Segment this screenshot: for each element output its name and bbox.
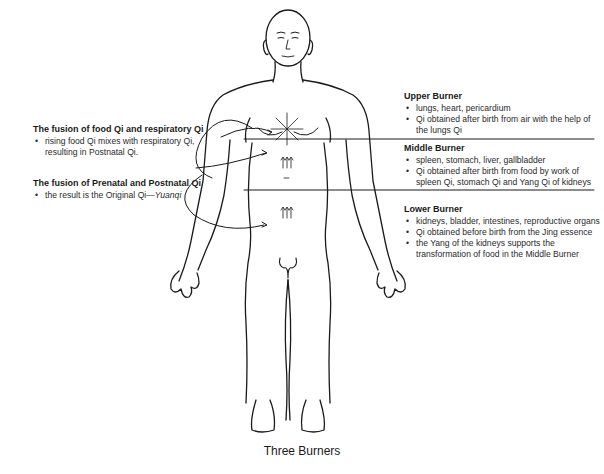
upper-burner-item: Qi obtained after birth from air with th… [416,114,594,136]
middle-burner-title: Middle Burner [404,143,604,154]
lower-burner-item: kidneys, bladder, intestines, reproducti… [416,216,604,227]
fusion-prenatal-postnatal-item: the result is the Original Qi—Yuanqi [45,190,218,201]
figure-caption: Three Burners [0,444,604,458]
middle-burner-item: Qi obtained after birth from food by wor… [416,166,604,188]
fusion-item-text: the result is the Original Qi— [45,190,155,200]
fusion-prenatal-postnatal-block: The fusion of Prenatal and Postnatal Qi … [33,178,218,201]
yuanqi-term: Yuanqi [155,190,181,200]
lower-burner-block: Lower Burner kidneys, bladder, intestine… [404,204,604,260]
upper-burner-item: lungs, heart, pericardium [416,103,594,114]
fusion-food-respiratory-item: rising food Qi mixes with respiratory Qi… [45,136,218,158]
lower-burner-title: Lower Burner [404,204,604,215]
lower-burner-item: the Yang of the kidneys supports the tra… [416,238,604,260]
lower-burner-item: Qi obtained before birth from the Jing e… [416,227,604,238]
fusion-food-respiratory-block: The fusion of food Qi and respiratory Qi… [33,124,218,158]
three-burners-figure: Upper Burner lungs, heart, pericardium Q… [0,0,604,474]
fusion-prenatal-postnatal-title: The fusion of Prenatal and Postnatal Qi [33,178,218,189]
middle-burner-item: spleen, stomach, liver, gallbladder [416,155,604,166]
middle-burner-block: Middle Burner spleen, stomach, liver, ga… [404,143,604,188]
fusion-food-respiratory-title: The fusion of food Qi and respiratory Qi [33,124,218,135]
upper-burner-block: Upper Burner lungs, heart, pericardium Q… [404,91,594,136]
upper-burner-title: Upper Burner [404,91,594,102]
